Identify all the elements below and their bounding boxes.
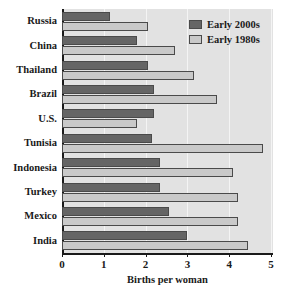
bar-thailand-early-2000s [62, 61, 148, 70]
bar-mexico-early-2000s [62, 207, 169, 216]
legend-item-early-2000s[interactable]: Early 2000s [189, 17, 260, 32]
bar-china-early-1980s [62, 46, 175, 55]
bar-thailand-early-1980s [62, 71, 194, 80]
fertility-bar-chart: RussiaChinaThailandBrazilU.S.TunisiaIndo… [0, 0, 293, 293]
legend-swatch-early-2000s [189, 20, 202, 29]
bar-turkey-early-2000s [62, 183, 160, 192]
bar-indonesia-early-1980s [62, 168, 233, 177]
tick-label-3: 3 [175, 257, 199, 271]
gridline-5 [271, 9, 272, 253]
legend-item-early-1980s[interactable]: Early 1980s [189, 32, 260, 47]
tick-label-1: 1 [92, 257, 116, 271]
bar-russia-early-1980s [62, 22, 148, 31]
tick-label-4: 4 [217, 257, 241, 271]
category-label-tunisia: Tunisia [0, 137, 57, 149]
category-label-russia: Russia [0, 15, 57, 27]
bar-india-early-1980s [62, 241, 248, 250]
legend-label-early-2000s: Early 2000s [207, 19, 260, 30]
bar-china-early-2000s [62, 36, 137, 45]
category-label-brazil: Brazil [0, 88, 57, 100]
x-axis-title: Births per woman [62, 274, 273, 285]
category-label-thailand: Thailand [0, 64, 57, 76]
bar-tunisia-early-1980s [62, 144, 263, 153]
category-label-china: China [0, 40, 57, 52]
legend-label-early-1980s: Early 1980s [207, 34, 260, 45]
bar-tunisia-early-2000s [62, 134, 152, 143]
legend: Early 2000s Early 1980s [186, 14, 264, 50]
bar-brazil-early-2000s [62, 85, 154, 94]
bar-mexico-early-1980s [62, 217, 238, 226]
category-label-u-s: U.S. [0, 113, 57, 125]
tick-label-2: 2 [134, 257, 158, 271]
category-label-mexico: Mexico [0, 210, 57, 222]
bar-brazil-early-1980s [62, 95, 217, 104]
bar-indonesia-early-2000s [62, 158, 160, 167]
bar-turkey-early-1980s [62, 193, 238, 202]
category-label-turkey: Turkey [0, 186, 57, 198]
category-label-india: India [0, 235, 57, 247]
bar-u-s-early-1980s [62, 119, 137, 128]
category-label-indonesia: Indonesia [0, 162, 57, 174]
bar-u-s-early-2000s [62, 109, 154, 118]
bar-russia-early-2000s [62, 12, 110, 21]
bar-india-early-2000s [62, 231, 187, 240]
tick-label-5: 5 [259, 257, 283, 271]
legend-swatch-early-1980s [189, 35, 202, 44]
tick-label-0: 0 [50, 257, 74, 271]
x-axis-line [62, 253, 273, 255]
